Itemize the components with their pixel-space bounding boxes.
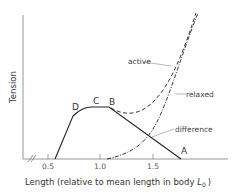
point-label-B: B [109, 97, 115, 107]
x-axis-title-main: Length (relative to mean length in body [25, 177, 197, 187]
active-label: active [128, 57, 151, 66]
difference-leader [152, 129, 174, 137]
axes [23, 15, 228, 162]
length-tension-chart: 0.5 1.0 1.5 Tension Length (relative to … [0, 0, 236, 194]
difference-label: difference [175, 125, 213, 134]
point-label-C: C [93, 96, 99, 106]
x-tick-label-1.0: 1.0 [94, 162, 106, 171]
x-axis-title-close: ) [208, 177, 211, 187]
x-axis-title: Length (relative to mean length in body … [25, 177, 211, 188]
point-label-D: D [72, 102, 79, 112]
y-axis-title: Tension [8, 71, 18, 104]
x-tick-label-0.5: 0.5 [42, 162, 54, 171]
relaxed-label: relaxed [186, 90, 214, 99]
x-tick-label-1.5: 1.5 [147, 162, 159, 171]
point-label-A: A [181, 146, 188, 156]
x-axis-title-subscript: 0 [202, 181, 206, 188]
axis-break-icon [28, 155, 36, 162]
